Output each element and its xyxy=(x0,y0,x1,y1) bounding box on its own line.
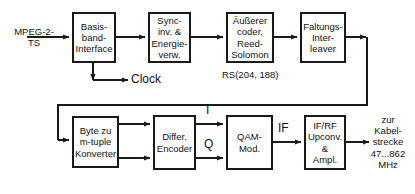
block-line: Upconv. xyxy=(308,131,342,142)
block-line: verw. xyxy=(158,49,180,60)
block-if-rf-upconverter-amplifier[interactable]: IF/RF Upconv. & Ampl. xyxy=(304,115,346,170)
block-line: Inter- xyxy=(312,32,334,43)
block-line: & xyxy=(322,143,328,154)
block-line: coder, xyxy=(237,26,263,37)
block-line: inv. & xyxy=(158,26,181,37)
block-convolutional-interleaver[interactable]: Faltungs- Inter- leaver xyxy=(300,12,346,63)
label-clock: Clock xyxy=(131,73,161,87)
block-byte-to-m-tuple-converter[interactable]: Byte zu m-tuple Konverter xyxy=(72,116,119,168)
label-output-cable-network: zur Kabel- strecke 47...862 MHz xyxy=(362,114,414,170)
block-qam-modulator[interactable]: QAM- Mod. xyxy=(226,115,273,170)
block-line: Solomon xyxy=(231,49,269,60)
label-line: 47...862 xyxy=(362,148,414,159)
block-line: Energie- xyxy=(152,38,188,49)
block-line: Sync- xyxy=(157,15,181,26)
block-line: Faltungs- xyxy=(303,21,343,32)
block-line: band- xyxy=(82,32,106,43)
block-line: IF/RF xyxy=(313,120,337,131)
block-diagram: Basis- band- Interface Sync- inv. & Ener… xyxy=(0,0,415,194)
label-rs-code: RS(204, 188) xyxy=(222,69,279,80)
block-line: Byte zu xyxy=(80,125,112,136)
block-line: Basis- xyxy=(81,21,107,32)
block-line: Konverter xyxy=(75,148,116,159)
label-line: Kabel- xyxy=(362,125,414,136)
block-line: Encoder xyxy=(157,143,192,154)
block-baseband-interface[interactable]: Basis- band- Interface xyxy=(72,12,116,63)
label-i-branch: I xyxy=(206,104,209,118)
label-line: MHz xyxy=(362,159,414,170)
block-line: Differ. xyxy=(162,131,187,142)
block-outer-coder-reed-solomon[interactable]: Äußerer coder, Reed- Solomon xyxy=(226,12,274,63)
label-line: zur xyxy=(362,114,414,125)
block-line: QAM- xyxy=(237,131,262,142)
label-mpeg2-ts-input: MPEG-2- TS xyxy=(2,26,66,48)
label-q-branch: Q xyxy=(204,138,213,152)
block-differential-encoder[interactable]: Differ. Encoder xyxy=(153,115,196,170)
label-line: TS xyxy=(2,37,66,48)
block-line: Reed- xyxy=(237,38,263,49)
label-if-signal: IF xyxy=(278,122,289,136)
block-sync-inversion-energy-dispersal[interactable]: Sync- inv. & Energie- verw. xyxy=(148,12,191,63)
block-line: Interface xyxy=(76,43,113,54)
block-line: Ampl. xyxy=(313,154,337,165)
block-line: leaver xyxy=(310,43,336,54)
block-line: Äußerer xyxy=(233,15,267,26)
block-line: Mod. xyxy=(239,143,260,154)
block-line: m-tuple xyxy=(80,136,112,147)
label-line: MPEG-2- xyxy=(2,26,66,37)
label-line: strecke xyxy=(362,136,414,147)
